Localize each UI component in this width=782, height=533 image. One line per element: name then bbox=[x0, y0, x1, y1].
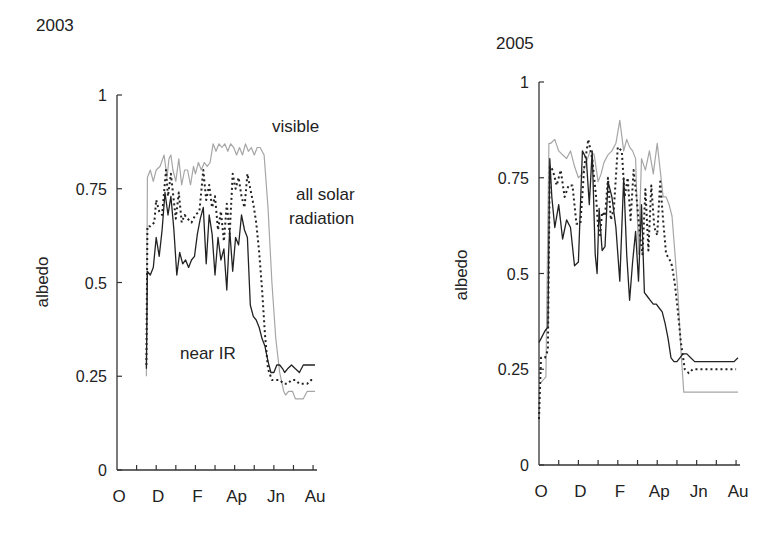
y-tick-label: 0 bbox=[98, 462, 107, 479]
x-tick-label: Ap bbox=[649, 482, 670, 501]
series-line-all-solar-radiation bbox=[539, 139, 736, 419]
x-tick-label: O bbox=[534, 482, 547, 501]
x-tick-label: D bbox=[574, 482, 586, 501]
x-tick-label: F bbox=[192, 487, 202, 506]
x-tick-label: Ap bbox=[226, 487, 247, 506]
x-tick-label: D bbox=[152, 487, 164, 506]
x-tick-label: Au bbox=[305, 487, 326, 506]
line-chart: 00.250.50.751ODFApJnAualbedo bbox=[391, 0, 782, 533]
annotation-all-solar-line2: radiation bbox=[289, 207, 354, 231]
y-tick-label: 0.25 bbox=[76, 368, 107, 385]
series-line-near-ir bbox=[539, 151, 738, 362]
annotation-visible: visible bbox=[272, 115, 319, 139]
y-tick-label: 0.75 bbox=[498, 170, 529, 187]
chart-panel-2003: 2003 00.250.50.751ODFApJnAualbedo visibl… bbox=[0, 0, 391, 533]
y-tick-label: 1 bbox=[520, 74, 529, 91]
x-tick-label: O bbox=[112, 487, 125, 506]
y-tick-label: 0.75 bbox=[76, 181, 107, 198]
y-tick-label: 0 bbox=[520, 457, 529, 474]
annotation-near-ir: near IR bbox=[180, 342, 236, 366]
y-tick-label: 0.5 bbox=[507, 266, 529, 283]
chart-panel-2005: 2005 00.250.50.751ODFApJnAualbedo bbox=[391, 0, 782, 533]
x-tick-label: Jn bbox=[267, 487, 285, 506]
y-axis-label: albedo bbox=[33, 256, 52, 307]
line-chart: 00.250.50.751ODFApJnAualbedo bbox=[0, 0, 391, 533]
y-tick-label: 0.25 bbox=[498, 361, 529, 378]
annotation-all-solar-line1: all solar bbox=[296, 183, 355, 207]
x-tick-label: Au bbox=[728, 482, 749, 501]
y-tick-label: 0.5 bbox=[85, 275, 107, 292]
x-tick-label: F bbox=[615, 482, 625, 501]
x-tick-label: Jn bbox=[690, 482, 708, 501]
y-axis-label: albedo bbox=[452, 249, 471, 300]
series-line-visible bbox=[539, 120, 738, 392]
y-tick-label: 1 bbox=[98, 87, 107, 104]
